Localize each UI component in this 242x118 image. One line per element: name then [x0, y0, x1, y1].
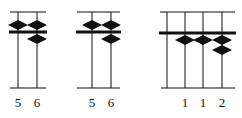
- lower-bead: [175, 35, 195, 45]
- rod-label: 2: [216, 96, 228, 110]
- rod-label: 1: [197, 96, 209, 110]
- upper-bead: [82, 20, 102, 30]
- rod-label: 6: [31, 96, 43, 110]
- rod-label: 1: [179, 96, 191, 110]
- rod-label: 5: [86, 96, 98, 110]
- lower-bead: [101, 34, 121, 44]
- rod-label: 6: [105, 96, 117, 110]
- lower-bead: [193, 35, 213, 45]
- upper-bead: [27, 20, 47, 30]
- rod-label: 5: [12, 96, 24, 110]
- lower-bead: [212, 45, 232, 55]
- upper-bead: [101, 20, 121, 30]
- upper-bead: [8, 20, 28, 30]
- lower-bead: [212, 35, 232, 45]
- lower-bead: [27, 34, 47, 44]
